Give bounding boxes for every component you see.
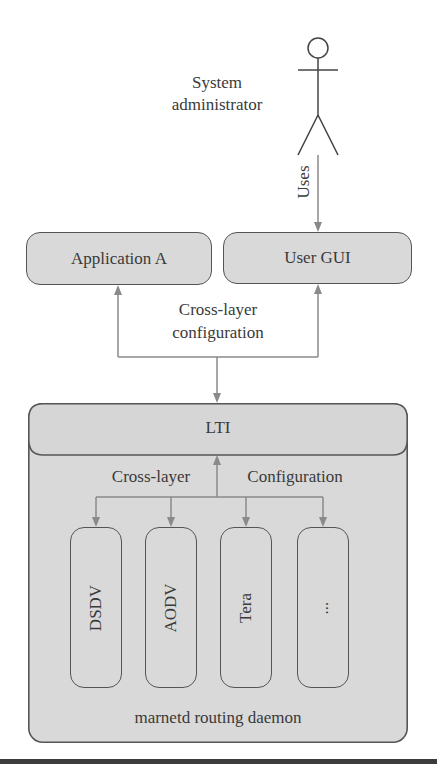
lti-header-label: LTI [28, 418, 408, 438]
protocol-tera: Tera [220, 527, 272, 688]
cross-layer-config-label: Cross-layer configuration [140, 298, 296, 344]
daemon-footer-label: marnetd routing daemon [28, 708, 408, 728]
uses-edge-label: Uses [294, 162, 314, 202]
connector-layer [0, 0, 437, 779]
cross-layer-config-line1: Cross-layer [140, 298, 296, 321]
actor-label: System administrator [150, 72, 284, 116]
actor-label-line2: administrator [150, 94, 284, 116]
application-a-box: Application A [26, 232, 212, 285]
protocol-dsdv: DSDV [70, 527, 122, 688]
user-gui-box: User GUI [223, 232, 412, 284]
protocol-tera-label: Tera [236, 593, 256, 623]
protocol-more: ... [297, 527, 349, 688]
bottom-rule-divider [0, 759, 437, 764]
protocol-more-label: ... [313, 601, 333, 614]
actor-stick-figure-icon [298, 38, 338, 155]
internal-cross-layer-label: Cross-layer [96, 467, 206, 487]
protocol-aodv: AODV [145, 527, 197, 688]
actor-label-line1: System [150, 72, 284, 94]
cross-layer-config-line2: configuration [140, 321, 296, 344]
protocol-aodv-label: AODV [161, 583, 181, 632]
internal-configuration-label: Configuration [230, 467, 360, 487]
protocol-dsdv-label: DSDV [86, 584, 106, 630]
